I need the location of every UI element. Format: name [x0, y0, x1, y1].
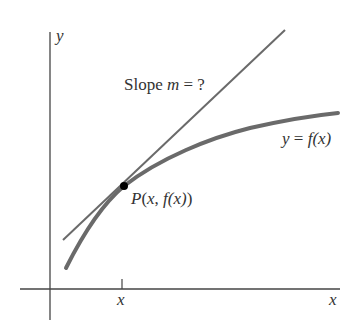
- curve-arg: (x): [312, 129, 331, 148]
- point-arg: (x): [168, 189, 187, 208]
- curve-lhs: y: [280, 129, 290, 148]
- tangent-line: [63, 30, 285, 240]
- point-name: P: [130, 189, 141, 208]
- curve-eq: =: [290, 129, 308, 148]
- y-axis-label: y: [54, 26, 64, 45]
- point-label: P(x, f(x)): [130, 189, 192, 208]
- point-close: ): [187, 189, 193, 208]
- tangent-diagram: y x x Slope m = ? y = f(x) P(x, f(x)): [0, 0, 362, 328]
- slope-prefix: Slope: [124, 75, 167, 94]
- point-sep: ,: [155, 189, 164, 208]
- slope-suffix: = ?: [179, 75, 205, 94]
- x-tick-label: x: [116, 290, 125, 309]
- x-axis-label: x: [328, 290, 337, 309]
- curve-label: y = f(x): [280, 129, 332, 148]
- slope-var: m: [167, 75, 179, 94]
- slope-label: Slope m = ?: [124, 75, 205, 94]
- point-p: [120, 182, 128, 190]
